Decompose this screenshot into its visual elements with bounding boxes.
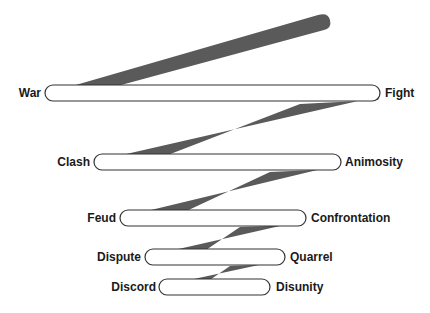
pill-level-1: [45, 85, 380, 101]
label-disunity: Disunity: [276, 280, 323, 294]
label-war: War: [19, 86, 41, 100]
label-fight: Fight: [385, 86, 414, 100]
label-quarrel: Quarrel: [290, 250, 333, 264]
band-top: [48, 14, 330, 93]
label-discord: Discord: [111, 280, 156, 294]
label-dispute: Dispute: [97, 250, 141, 264]
pill-level-2: [94, 154, 341, 170]
band-2: [126, 165, 338, 216]
pill-level-4: [145, 249, 285, 265]
label-confrontation: Confrontation: [311, 211, 390, 225]
pill-level-5: [159, 279, 270, 295]
label-clash: Clash: [57, 155, 90, 169]
label-animosity: Animosity: [345, 155, 403, 169]
pill-level-3: [120, 210, 306, 226]
band-1: [100, 96, 380, 160]
label-feud: Feud: [87, 211, 116, 225]
